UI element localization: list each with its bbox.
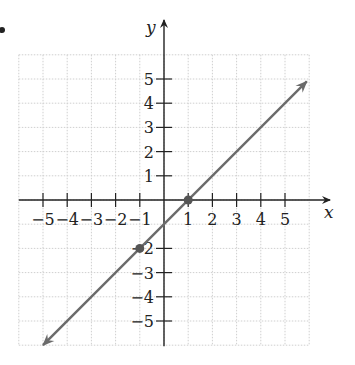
y-tick-label: 5 — [144, 70, 154, 89]
y-tick-label: −4 — [130, 288, 154, 307]
x-tick-label: −2 — [104, 210, 128, 229]
y-tick-label: −3 — [130, 264, 154, 283]
x-tick-label: 2 — [207, 210, 217, 229]
x-tick-label: 4 — [256, 210, 266, 229]
bullet-dot — [0, 27, 5, 33]
y-axis-label: y — [145, 17, 156, 37]
point-marker — [184, 196, 193, 205]
x-tick-label: −5 — [31, 210, 55, 229]
y-tick-label: 2 — [144, 143, 154, 162]
x-tick-label: −3 — [80, 210, 104, 229]
x-tick-label: 5 — [280, 210, 290, 229]
y-tick-label: −5 — [130, 312, 154, 331]
y-tick-label: 1 — [144, 167, 154, 186]
x-tick-label: 3 — [232, 210, 242, 229]
y-tick-label: 3 — [144, 118, 154, 137]
x-tick-label: 1 — [183, 210, 193, 229]
x-tick-label: −1 — [128, 210, 152, 229]
point-marker — [135, 244, 144, 253]
coordinate-plane: −5−4−3−2−11234554321−2−3−4−5 x y — [0, 0, 355, 365]
y-tick-label: 4 — [144, 94, 154, 113]
x-tick-label: −4 — [55, 210, 79, 229]
x-axis-label: x — [324, 202, 334, 222]
